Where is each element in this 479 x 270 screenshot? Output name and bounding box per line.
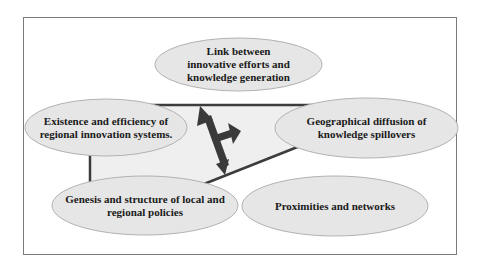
node-ellipse-genesis[interactable] bbox=[52, 176, 238, 235]
node-ellipse-proximities[interactable] bbox=[242, 176, 428, 236]
diagram-canvas bbox=[0, 0, 479, 270]
node-ellipse-link[interactable] bbox=[155, 38, 322, 91]
node-ellipse-geographical[interactable] bbox=[275, 98, 458, 158]
node-ellipse-existence[interactable] bbox=[25, 99, 187, 156]
